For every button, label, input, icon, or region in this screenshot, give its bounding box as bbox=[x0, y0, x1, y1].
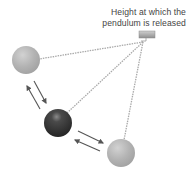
ball-lowest-dark bbox=[44, 109, 72, 137]
arrow-return-left-icon bbox=[75, 140, 100, 151]
pendulum-diagram bbox=[0, 0, 187, 180]
arrow-swing-right-icon bbox=[78, 131, 103, 143]
arrow-swing-down-icon bbox=[34, 81, 46, 103]
ball-right bbox=[107, 139, 135, 167]
ball-released-left bbox=[12, 46, 40, 74]
pivot-icon bbox=[139, 31, 155, 41]
chain-right bbox=[124, 42, 143, 140]
